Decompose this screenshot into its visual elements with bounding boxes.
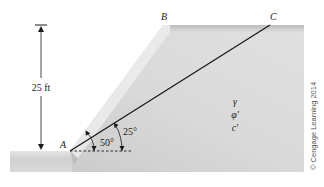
failure-angle-label: 25°: [123, 126, 137, 137]
slope-angle-label: 50°: [100, 137, 114, 148]
cohesion-label: c′: [232, 122, 239, 133]
copyright-text: © Cengage Learning 2014: [309, 82, 318, 170]
point-a-label: A: [59, 139, 67, 150]
friction-angle-label: φ′: [231, 109, 240, 120]
arrow-up-icon: [38, 26, 44, 32]
height-label: 25 ft: [32, 82, 51, 93]
arrow-down-icon: [38, 144, 44, 150]
soil-body: [10, 25, 304, 172]
slope-diagram: 25 ft 50° 25° A B C γ φ′ c′ © Cengage Le…: [0, 0, 324, 187]
point-c-label: C: [270, 11, 277, 22]
point-b-label: B: [161, 11, 167, 22]
